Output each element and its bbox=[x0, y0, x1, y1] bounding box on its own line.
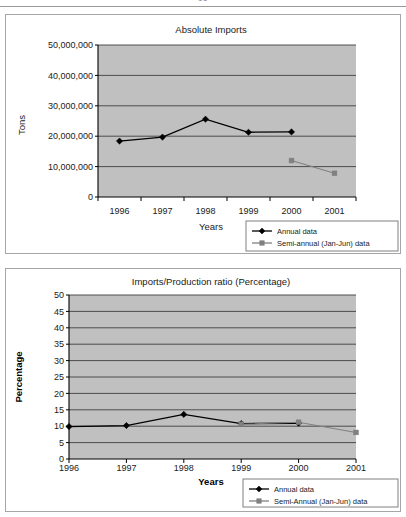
plot-area bbox=[98, 45, 356, 197]
y-axis-tick-label: 10 bbox=[54, 421, 64, 431]
y-axis-tick-label: 20,000,000 bbox=[48, 131, 93, 141]
x-axis-tick-label: 2000 bbox=[281, 206, 301, 216]
x-axis-tick-label: 2000 bbox=[289, 463, 309, 473]
legend-entry-label: Annual data bbox=[274, 485, 315, 494]
x-axis-tick-label: 1999 bbox=[238, 206, 258, 216]
x-axis-tick-label: 1997 bbox=[116, 463, 136, 473]
y-axis-tick-label: 5 bbox=[59, 438, 64, 448]
document-page: 16 Absolute Imports010,000,00020,000,000… bbox=[0, 0, 406, 517]
chart-legend: Annual dataSemi-Annual (Jan-Jun) data bbox=[243, 479, 398, 507]
y-axis-tick-label: 35 bbox=[54, 339, 64, 349]
chart-legend: Annual dataSemi-annual (Jan-Jun) data bbox=[246, 221, 398, 251]
y-axis-tick-label: 30 bbox=[54, 356, 64, 366]
y-axis-title: Tons bbox=[16, 115, 27, 135]
data-point-marker bbox=[289, 158, 294, 163]
chart-imports-production-ratio: Imports/Production ratio (Percentage)051… bbox=[6, 269, 400, 511]
chart-title: Absolute Imports bbox=[175, 24, 247, 35]
legend-entry-label: Semi-annual (Jan-Jun) data bbox=[277, 239, 370, 248]
y-axis-tick-label: 15 bbox=[54, 405, 64, 415]
y-axis-tick-label: 50 bbox=[54, 290, 64, 300]
x-axis-tick-label: 1997 bbox=[152, 206, 172, 216]
legend-entry-label: Semi-Annual (Jan-Jun) data bbox=[274, 497, 368, 506]
x-axis-tick-label: 2001 bbox=[346, 463, 366, 473]
x-axis-tick-label: 1999 bbox=[231, 463, 251, 473]
x-axis-tick-label: 2001 bbox=[324, 206, 344, 216]
chart-absolute-imports: Absolute Imports010,000,00020,000,00030,… bbox=[6, 15, 400, 253]
x-axis-tick-label: 1996 bbox=[109, 206, 129, 216]
x-axis-tick-label: 1996 bbox=[59, 463, 79, 473]
chart-title: Imports/Production ratio (Percentage) bbox=[132, 276, 290, 287]
page-header: 16 bbox=[0, 0, 406, 10]
y-axis-tick-label: 20 bbox=[54, 389, 64, 399]
data-point-marker bbox=[260, 241, 264, 245]
data-point-marker bbox=[239, 422, 244, 427]
y-axis-tick-label: 25 bbox=[54, 372, 64, 382]
y-axis-tick-label: 30,000,000 bbox=[48, 101, 93, 111]
data-point-marker bbox=[354, 430, 359, 435]
legend-entry-label: Annual data bbox=[277, 227, 318, 236]
y-axis-tick-label: 40 bbox=[54, 323, 64, 333]
data-point-marker bbox=[332, 171, 337, 176]
x-axis-title: Years bbox=[198, 476, 223, 487]
y-axis-tick-label: 0 bbox=[88, 192, 93, 202]
figure-imports-production-ratio: Imports/Production ratio (Percentage)051… bbox=[5, 268, 401, 512]
y-axis-tick-label: 10,000,000 bbox=[48, 162, 93, 172]
figure-absolute-imports: Absolute Imports010,000,00020,000,00030,… bbox=[5, 14, 401, 254]
y-axis-tick-label: 40,000,000 bbox=[48, 71, 93, 81]
x-axis-tick-label: 1998 bbox=[195, 206, 215, 216]
page-number: 16 bbox=[0, 0, 406, 3]
data-point-marker bbox=[257, 499, 261, 503]
x-axis-tick-label: 1998 bbox=[174, 463, 194, 473]
y-axis-tick-label: 45 bbox=[54, 307, 64, 317]
data-point-marker bbox=[296, 420, 301, 425]
y-axis-title: Percentage bbox=[13, 351, 24, 402]
header-rule bbox=[0, 6, 406, 7]
x-axis-title: Years bbox=[199, 221, 223, 232]
y-axis-tick-label: 50,000,000 bbox=[48, 40, 93, 50]
